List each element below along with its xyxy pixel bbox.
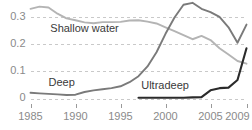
y-tick-label-0.2: 0.2 — [10, 37, 25, 49]
series-label-shallow-water: Shallow water — [50, 22, 119, 34]
series-annotation-labels: Shallow waterDeepUltradeep — [49, 22, 189, 91]
series-label-deep: Deep — [49, 76, 75, 88]
y-tick-label-0.1: 0.1 — [10, 64, 25, 76]
chart-canvas: 00.10.20.3 198519901995200020052009 Shal… — [0, 0, 252, 130]
x-tick-label-2009: 2009 — [225, 110, 249, 122]
y-axis-tick-labels: 00.10.20.3 — [10, 10, 25, 104]
x-tick-label-1985: 1985 — [18, 110, 42, 122]
x-tick-label-2000: 2000 — [153, 110, 177, 122]
series-label-ultradeep: Ultradeep — [141, 79, 189, 91]
x-tickmarks-group — [32, 104, 248, 108]
y-tick-label-0.3: 0.3 — [10, 10, 25, 22]
x-tick-label-1995: 1995 — [108, 110, 132, 122]
y-tick-label-0: 0 — [19, 91, 25, 103]
oil-production-depth-line-chart: 00.10.20.3 198519901995200020052009 Shal… — [0, 0, 252, 130]
x-axis-tick-labels: 198519901995200020052009 — [18, 110, 249, 122]
x-tick-label-1990: 1990 — [63, 110, 87, 122]
x-tick-label-2005: 2005 — [198, 110, 222, 122]
series-line-shallow-water — [31, 7, 247, 64]
